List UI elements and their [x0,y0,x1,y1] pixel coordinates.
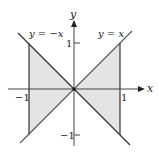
curve-label-y-equals-x: y = x [97,28,124,39]
x-axis-label: x [147,82,154,95]
curve-label-y-equals-negative-x: y = −x [28,28,64,39]
x-tick-label-1: 1 [121,92,127,103]
x-tick-label-neg1: −1 [15,92,30,103]
x-axis-arrow-icon [138,86,145,92]
y-tick-label-1: 1 [66,38,72,49]
y-axis-label: y [69,8,77,21]
origin-point [72,87,75,90]
bowtie-region-figure: y x 1 −1 −1 1 y = −x y = x [0,0,158,152]
y-tick-label-neg1: −1 [60,130,75,141]
y-axis-arrow-icon [71,20,77,27]
